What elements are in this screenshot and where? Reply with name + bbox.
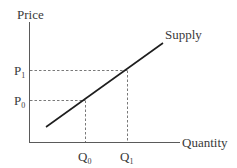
q0-label: Q0 xyxy=(78,149,91,166)
p0-subscript: 0 xyxy=(21,101,25,110)
x-axis-label: Quantity xyxy=(182,135,228,150)
q0-subscript: 0 xyxy=(87,157,91,166)
q1-label: Q1 xyxy=(120,149,133,166)
q1-subscript: 1 xyxy=(129,157,133,166)
p0-base: P xyxy=(14,93,21,108)
y-axis-label: Price xyxy=(17,7,44,22)
p1-subscript: 1 xyxy=(21,71,25,80)
supply-curve xyxy=(46,43,163,127)
supply-diagram: Price Quantity Supply P1 P0 Q0 Q1 xyxy=(0,0,237,168)
p0-label: P0 xyxy=(14,93,25,110)
p1-base: P xyxy=(14,63,21,78)
p1-label: P1 xyxy=(14,63,25,80)
supply-label: Supply xyxy=(165,27,202,42)
